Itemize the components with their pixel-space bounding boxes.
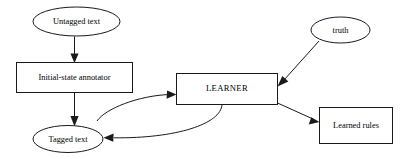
node-label-initial-state-annotator: Initial-state annotator <box>39 73 111 82</box>
edge-learner-to-learned-rules <box>278 103 320 125</box>
arrow-head-icon <box>104 134 114 142</box>
diagram-svg: Untagged text Initial-state annotator Ta… <box>0 0 409 159</box>
node-label-learner: LEARNER <box>206 83 248 93</box>
edge-curve <box>97 95 170 122</box>
edge-line <box>278 103 314 119</box>
arrow-head-icon <box>70 54 78 64</box>
edge-initial-state-annotator-to-tagged-text <box>70 93 78 127</box>
arrow-head-icon <box>70 116 78 127</box>
node-untagged-text[interactable]: Untagged text <box>33 7 120 36</box>
arrow-head-icon <box>167 91 177 99</box>
edge-curve <box>114 105 222 138</box>
node-learned-rules[interactable]: Learned rules <box>320 108 393 144</box>
node-label-untagged-text: Untagged text <box>53 17 101 26</box>
node-label-learned-rules: Learned rules <box>333 121 379 130</box>
diagram-canvas: Untagged text Initial-state annotator Ta… <box>0 0 409 159</box>
node-label-tagged-text: Tagged text <box>48 135 88 144</box>
node-learner[interactable]: LEARNER <box>177 74 278 105</box>
node-tagged-text[interactable]: Tagged text <box>33 126 103 153</box>
edge-line <box>284 41 319 80</box>
node-label-truth: truth <box>333 26 350 35</box>
edge-truth-to-learner <box>278 41 320 87</box>
edge-learner-to-tagged-text <box>104 105 223 142</box>
node-truth[interactable]: truth <box>311 17 370 43</box>
node-initial-state-annotator[interactable]: Initial-state annotator <box>17 63 133 93</box>
edge-tagged-text-to-learner <box>97 91 177 121</box>
edge-untagged-text-to-initial-state-annotator <box>70 37 78 64</box>
